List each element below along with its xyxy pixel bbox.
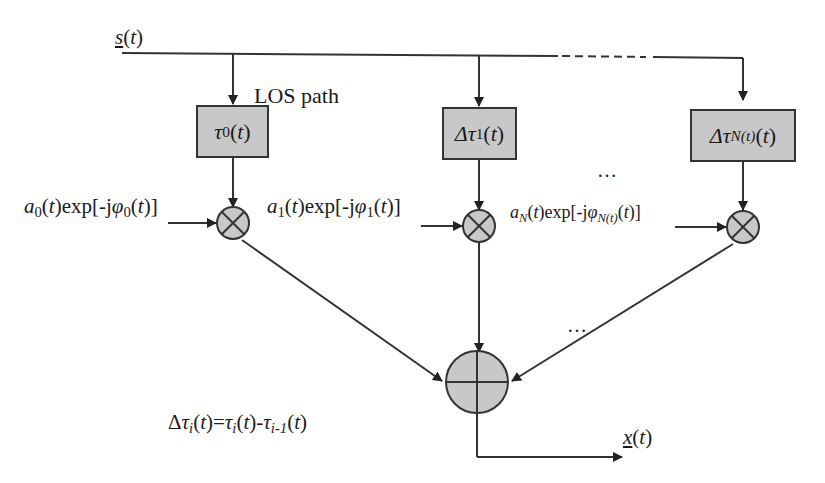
multiplier-1 [463,210,495,242]
multiplier-n [727,211,759,243]
input-signal-label: s(t) [115,27,143,48]
ellipsis-top: … [597,159,619,182]
delay-difference-equation: Δτi(t)=τi(t)-τi-1(t) [168,412,307,433]
multipath-diagram [0,0,825,483]
gain-label-0: a0(t)exp[-jφ0(t)] [24,196,158,217]
input-bus-line [122,53,558,56]
los-path-label: LOS path [254,85,339,107]
input-bus-dashed [562,56,646,57]
delay-block-0: τ0(t) [196,105,269,158]
gain-label-1: a1(t)exp[-jφ1(t)] [267,196,401,217]
gain-label-n: aN(t)exp[-jφN(t)(t)] [510,203,641,221]
adder [446,351,508,413]
multiplier-0 [217,207,249,239]
delay-block-n: ΔτN(t)(t) [690,109,796,162]
ellipsis-bottom: … [567,314,589,337]
input-bus-line-right [653,57,743,58]
output-signal-label: x(t) [623,427,652,448]
delay-block-1: Δτ1(t) [442,107,517,160]
